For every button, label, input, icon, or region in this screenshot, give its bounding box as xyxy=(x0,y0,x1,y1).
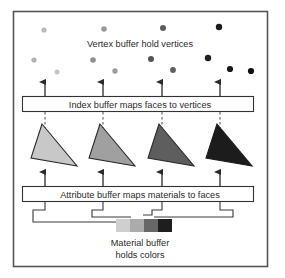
index-buffer-label: Index buffer maps faces to vertices xyxy=(69,100,212,110)
material-swatch-3 xyxy=(144,219,158,232)
vertex-dot xyxy=(216,24,222,30)
material-swatch-1 xyxy=(116,219,130,232)
vertex-dot xyxy=(41,27,46,32)
vertex-buffer-label: Vertex buffer hold vertices xyxy=(87,39,193,49)
vertex-dot xyxy=(112,68,117,73)
graphics-pipeline-diagram: Vertex buffer hold vertices Index buffer… xyxy=(0,0,285,278)
diagram-canvas: Vertex buffer hold vertices Index buffer… xyxy=(0,0,285,278)
material-buffer-caption-line1: Material buffer xyxy=(111,238,170,248)
material-swatch-4 xyxy=(158,219,172,232)
material-swatch-2 xyxy=(130,219,144,232)
vertex-dot xyxy=(101,26,107,32)
vertex-dot xyxy=(248,68,254,74)
material-buffer-caption-line2: holds colors xyxy=(115,250,164,260)
vertex-dot xyxy=(160,25,166,31)
vertex-dot xyxy=(31,57,36,62)
material-buffer-strip xyxy=(116,219,172,232)
vertex-dot xyxy=(148,56,154,62)
attribute-buffer-label: Attribute buffer maps materials to faces xyxy=(60,190,220,200)
vertex-dot xyxy=(205,55,211,61)
vertex-dot xyxy=(227,66,233,72)
vertex-dot xyxy=(55,70,60,75)
vertex-dot xyxy=(90,57,96,63)
vertex-dot xyxy=(170,67,176,73)
